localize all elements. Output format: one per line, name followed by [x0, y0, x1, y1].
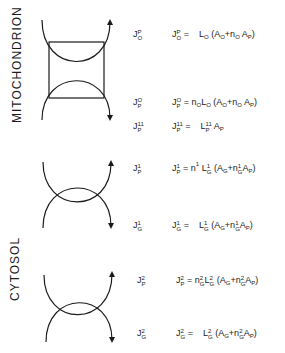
equation-JG1: J1G = L1G (AG+n1GAP)	[172, 220, 253, 232]
arc-JP2-arrow	[44, 274, 112, 315]
flux-label-JP1: J1P	[133, 163, 142, 175]
equation-JPO: JOP = nOLO (AO+nO AP)	[172, 97, 257, 109]
arc-JG2-arrow	[46, 303, 112, 342]
arc-JPO-arrow	[42, 81, 110, 120]
equation-JP1: J1P = n1 L1G (AG+n1GAP)	[172, 163, 256, 175]
flux-label-JOP: JPO	[133, 29, 142, 41]
arc-diagram	[0, 0, 285, 353]
flux-label-JP2: J2P	[137, 275, 146, 287]
flux-label-JPO: JOP	[133, 97, 142, 109]
equation-JP2: J2P = n2GL2G (AG+n2GAP)	[176, 275, 258, 287]
arc-JG1-arrow	[43, 188, 111, 228]
flux-label-JG1: J1G	[133, 220, 142, 232]
arc-JOP-arrow	[42, 20, 110, 62]
carrier-square	[49, 42, 104, 98]
flux-label-JG2: J2G	[137, 328, 146, 340]
arc-JP1-arrow	[43, 162, 111, 202]
equation-JG2: J2G = L2G (AG+n2GAP)	[176, 328, 257, 340]
equation-JP11: J11P = L11P AP	[172, 121, 224, 133]
equation-JOP: JPO = LO (AO+nO AP)	[172, 29, 255, 41]
flux-diagram: MITOCHONDRION CYTOSOL JPO JPO =	[0, 0, 285, 353]
flux-label-JP11: J11P	[133, 121, 144, 133]
